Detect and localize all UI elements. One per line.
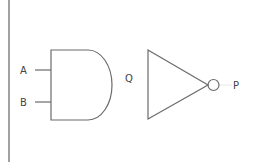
intermediate-q-label: Q xyxy=(125,73,133,84)
input-b-label: B xyxy=(20,97,27,108)
and-gate-icon xyxy=(51,50,112,120)
output-p-label: P xyxy=(233,80,239,91)
inversion-bubble-icon xyxy=(208,80,219,91)
input-a-label: A xyxy=(20,65,27,76)
not-gate-icon xyxy=(148,50,208,119)
logic-circuit-diagram: A B Q P xyxy=(0,0,260,162)
